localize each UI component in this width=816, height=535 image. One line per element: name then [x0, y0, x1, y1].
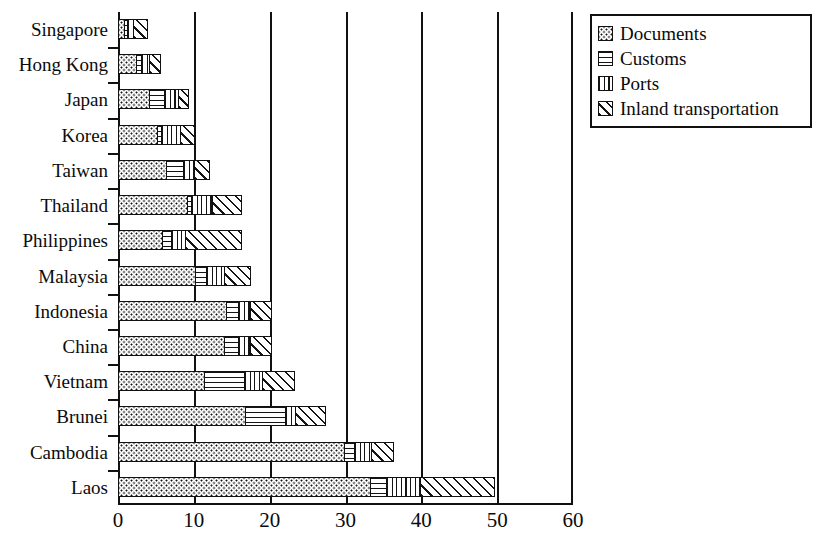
bar-row: [118, 47, 573, 82]
x-axis-tick-label-10: 10: [164, 508, 224, 533]
y-axis-category-labels: SingaporeHong KongJapanKoreaTaiwanThaila…: [0, 12, 114, 505]
x-axis-tick-label-50: 50: [467, 508, 527, 533]
bar-segment-documents: [118, 336, 226, 356]
stacked-bar-cambodia: [118, 442, 394, 462]
bar-row: [118, 82, 573, 117]
y-axis-label-vietnam: Vietnam: [44, 364, 108, 399]
bar-segment-inland-transportation: [185, 230, 242, 250]
y-axis-label-malaysia: Malaysia: [38, 259, 108, 294]
legend-box: DocumentsCustomsPortsInland transportati…: [590, 14, 812, 128]
x-axis-tick-label-0: 0: [88, 508, 148, 533]
bar-segment-documents: [118, 406, 247, 426]
legend-item-label: Documents: [620, 24, 707, 43]
bar-row: [118, 153, 573, 188]
stacked-bar-malaysia: [118, 266, 251, 286]
y-axis-label-cambodia: Cambodia: [30, 435, 108, 470]
y-axis-label-indonesia: Indonesia: [34, 294, 108, 329]
stacked-bar-hong-kong: [118, 54, 161, 74]
x-axis-tick-label-60: 60: [543, 508, 603, 533]
legend-item-inland-transportation[interactable]: Inland transportation: [598, 96, 810, 121]
bar-segment-ports: [191, 195, 214, 215]
bar-series-group: [118, 12, 573, 505]
stacked-bar-thailand: [118, 195, 242, 215]
bar-row: [118, 259, 573, 294]
legend-swatch-icon: [598, 26, 613, 41]
x-axis-tick-label-40: 40: [391, 508, 451, 533]
bar-segment-inland-transportation: [180, 125, 195, 145]
bar-row: [118, 435, 573, 470]
y-axis-label-thailand: Thailand: [40, 188, 108, 223]
bar-segment-inland-transportation: [420, 477, 495, 497]
bar-segment-inland-transportation: [371, 442, 394, 462]
y-axis-label-singapore: Singapore: [31, 12, 108, 47]
bar-row: [118, 294, 573, 329]
bar-segment-ports: [354, 442, 373, 462]
bar-row: [118, 188, 573, 223]
y-axis-label-japan: Japan: [65, 82, 108, 117]
bar-row: [118, 399, 573, 434]
bar-segment-inland-transportation: [262, 371, 295, 391]
bar-segment-documents: [118, 89, 151, 109]
stacked-bar-philippines: [118, 230, 242, 250]
y-axis-label-philippines: Philippines: [22, 223, 108, 258]
bar-row: [118, 118, 573, 153]
bar-segment-ports: [161, 125, 181, 145]
stacked-bar-japan: [118, 89, 189, 109]
x-axis-tick-label-20: 20: [240, 508, 300, 533]
legend-item-ports[interactable]: Ports: [598, 71, 810, 96]
bar-row: [118, 470, 573, 505]
legend-item-customs[interactable]: Customs: [598, 46, 810, 71]
bar-row: [118, 12, 573, 47]
bar-segment-customs: [166, 160, 185, 180]
bar-segment-documents: [118, 195, 189, 215]
bar-segment-documents: [118, 54, 138, 74]
stacked-bar-brunei: [118, 406, 326, 426]
bar-segment-documents: [118, 125, 159, 145]
bar-segment-inland-transportation: [250, 336, 273, 356]
legend-item-documents[interactable]: Documents: [598, 21, 810, 46]
bar-segment-inland-transportation: [295, 406, 325, 426]
legend-swatch-icon: [598, 51, 613, 66]
stacked-bar-laos: [118, 477, 495, 497]
stacked-bar-vietnam: [118, 371, 295, 391]
bar-segment-inland-transportation: [224, 266, 251, 286]
bar-segment-documents: [118, 301, 228, 321]
y-axis-label-hong-kong: Hong Kong: [19, 47, 108, 82]
bar-segment-inland-transportation: [149, 54, 161, 74]
bar-segment-customs: [204, 371, 246, 391]
legend-item-label: Inland transportation: [620, 99, 779, 118]
bar-segment-documents: [118, 442, 346, 462]
y-axis-label-laos: Laos: [71, 470, 108, 505]
stacked-bar-taiwan: [118, 160, 210, 180]
stacked-bar-singapore: [118, 19, 148, 39]
bar-segment-customs: [370, 477, 388, 497]
bar-segment-documents: [118, 160, 167, 180]
y-axis-label-korea: Korea: [62, 118, 108, 153]
y-axis-label-china: China: [63, 329, 108, 364]
bar-row: [118, 223, 573, 258]
legend-item-label: Ports: [620, 74, 659, 93]
bar-segment-documents: [118, 371, 205, 391]
bar-segment-ports: [206, 266, 226, 286]
stacked-bar-china: [118, 336, 272, 356]
bar-segment-documents: [118, 477, 371, 497]
x-axis-tick-labels: 0102030405060: [0, 508, 816, 535]
stacked-bar-indonesia: [118, 301, 272, 321]
bar-segment-inland-transportation: [250, 301, 273, 321]
y-axis-label-brunei: Brunei: [56, 399, 108, 434]
legend-swatch-icon: [598, 101, 613, 116]
x-axis-tick-label-30: 30: [316, 508, 376, 533]
bar-row: [118, 329, 573, 364]
stacked-bar-korea: [118, 125, 195, 145]
bar-segment-inland-transportation: [212, 195, 242, 215]
stacked-bar-chart: SingaporeHong KongJapanKoreaTaiwanThaila…: [0, 0, 816, 535]
bar-segment-ports: [386, 477, 421, 497]
bar-row: [118, 364, 573, 399]
legend-swatch-icon: [598, 76, 613, 91]
bar-segment-customs: [245, 406, 287, 426]
bar-segment-inland-transportation: [178, 89, 189, 109]
bar-segment-documents: [118, 230, 164, 250]
bar-segment-inland-transportation: [133, 19, 148, 39]
legend-item-label: Customs: [620, 49, 687, 68]
bar-segment-ports: [244, 371, 264, 391]
